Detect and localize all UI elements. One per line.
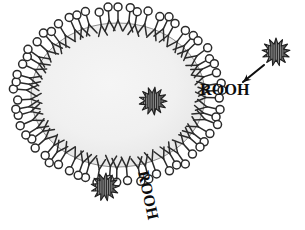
lipid-head-icon xyxy=(165,167,173,175)
lipid-head-icon xyxy=(95,8,103,16)
lipid-head-icon xyxy=(39,29,47,37)
lipid-head-icon xyxy=(181,26,189,34)
lipid-head-icon xyxy=(114,3,122,11)
lipid-head-icon xyxy=(14,96,22,104)
lipid-head-icon xyxy=(173,161,181,169)
lipid-head-icon xyxy=(171,19,179,27)
lipid-head-icon xyxy=(188,150,196,158)
lipid-head-icon xyxy=(212,69,220,77)
lipid-head-icon xyxy=(31,144,39,152)
lipid-tail-a xyxy=(152,150,153,161)
lipid-head-icon xyxy=(210,60,218,68)
rooh-label-right: ROOH xyxy=(200,81,250,98)
lipid-stalk xyxy=(17,89,26,90)
lipid-head-icon xyxy=(214,121,222,129)
lipid-head-icon xyxy=(47,27,55,35)
liposome-diagram: ROOHROOH xyxy=(0,0,305,230)
lipid-head-icon xyxy=(33,38,41,46)
lipid-head-icon xyxy=(204,44,212,52)
lipid-head-icon xyxy=(81,8,89,16)
lipid-stalk xyxy=(126,167,127,176)
lipid-stalk xyxy=(22,99,31,100)
lipid-head-icon xyxy=(65,167,73,175)
lipid-head-icon xyxy=(16,122,24,130)
lipid-head-icon xyxy=(13,70,21,78)
figure-root: ROOHROOH xyxy=(0,0,305,230)
lipid-head-icon xyxy=(124,177,132,185)
lipid-head-icon xyxy=(24,45,32,53)
lipid-head-icon xyxy=(194,37,202,45)
lipid-head-icon xyxy=(22,131,30,139)
lipid-head-icon xyxy=(216,105,224,113)
lipid-stalk xyxy=(108,11,109,20)
lipid-tail-b xyxy=(187,126,199,127)
lipid-head-icon xyxy=(206,130,214,138)
lipid-head-icon xyxy=(19,60,27,68)
lipid-head-icon xyxy=(54,20,62,28)
lipid-head-icon xyxy=(212,113,220,121)
lipid-head-icon xyxy=(156,13,164,21)
lipid-head-icon xyxy=(165,13,173,21)
lipid-head-icon xyxy=(12,78,20,86)
lipid-head-icon xyxy=(133,8,141,16)
lipid-head-icon xyxy=(12,105,20,113)
lipid-tail-b xyxy=(192,113,203,114)
lipid-stalk xyxy=(129,12,130,21)
lipid-tail-b xyxy=(194,119,206,120)
lipid-head-icon xyxy=(104,3,112,11)
lipid-head-icon xyxy=(54,161,62,169)
lipid-tail-a xyxy=(80,28,81,40)
lipid-head-icon xyxy=(65,13,73,21)
vesicle-lumen xyxy=(31,23,205,167)
lipid-head-icon xyxy=(181,160,189,168)
lipid-stalk xyxy=(110,166,111,175)
lipid-head-icon xyxy=(144,7,152,15)
lipid-head-icon xyxy=(74,171,82,179)
lipid-head-icon xyxy=(196,143,204,151)
lipid-head-icon xyxy=(73,11,81,19)
lipid-tail-a xyxy=(65,35,66,47)
lipid-tail-b xyxy=(35,69,47,70)
lipid-head-icon xyxy=(41,151,49,159)
